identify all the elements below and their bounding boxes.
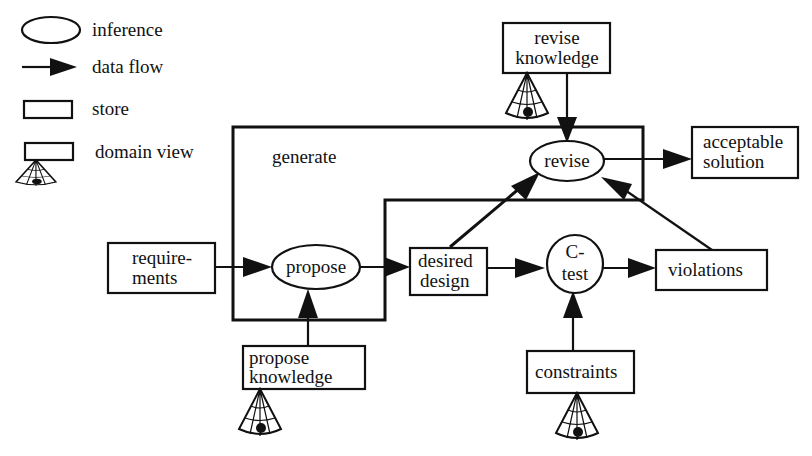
edge-constraints-c-test xyxy=(563,291,583,350)
node-label-line: violations xyxy=(668,259,743,280)
node-requirements[interactable]: require- ments xyxy=(108,243,215,293)
node-label-line: require- xyxy=(132,247,192,268)
arrow-icon xyxy=(22,58,77,76)
node-label-line: propose xyxy=(249,347,309,368)
domain-view-cone-icon xyxy=(239,389,281,436)
node-label-line: knowledge xyxy=(249,366,332,387)
node-revise-knowledge[interactable]: revise knowledge xyxy=(503,23,610,120)
legend-item-inference: inference xyxy=(22,17,163,43)
legend-label: store xyxy=(92,98,129,119)
edge-revise-knowledge-revise xyxy=(557,73,577,143)
edge-revise-acceptable-solution xyxy=(604,149,692,169)
node-revise[interactable]: revise xyxy=(530,141,604,181)
legend: inference data flow store domain view xyxy=(16,17,194,186)
edges xyxy=(215,73,712,350)
node-label-line: propose xyxy=(286,256,346,277)
edge-desired-design-revise xyxy=(450,172,540,247)
cone-icon xyxy=(16,160,56,186)
edge-propose-desired-design xyxy=(360,257,410,277)
inference-ellipse-icon xyxy=(22,17,80,43)
edge-violations-revise xyxy=(601,177,712,250)
edge-requirements-propose xyxy=(215,257,272,277)
legend-label: inference xyxy=(92,19,163,40)
node-propose-knowledge[interactable]: propose knowledge xyxy=(239,346,365,436)
legend-item-data-flow: data flow xyxy=(22,56,164,77)
node-label-line: revise xyxy=(534,27,579,48)
node-constraints[interactable]: constraints xyxy=(527,351,634,440)
legend-label: data flow xyxy=(92,56,164,77)
legend-item-domain-view: domain view xyxy=(16,141,194,186)
node-c-test[interactable]: C- test xyxy=(547,235,603,293)
node-label-line: desired xyxy=(418,250,473,271)
domain-view-cone-icon xyxy=(556,393,598,440)
node-label-line: knowledge xyxy=(515,47,598,68)
edge-c-test-violations xyxy=(603,258,656,278)
domain-view-cone-icon xyxy=(506,73,548,120)
node-label-line: revise xyxy=(544,150,589,171)
generate-label: generate xyxy=(272,146,336,167)
edge-desired-design-c-test xyxy=(487,258,545,278)
node-label-line: test xyxy=(562,263,589,284)
node-label-line: solution xyxy=(703,151,765,172)
node-label-line: ments xyxy=(132,267,177,288)
propose-and-revise-diagram: inference data flow store domain view ge… xyxy=(0,0,812,456)
store-rectangle-icon xyxy=(24,101,72,118)
legend-label: domain view xyxy=(95,141,194,162)
node-desired-design[interactable]: desired design xyxy=(410,248,487,295)
node-label-line: constraints xyxy=(535,361,617,382)
domain-view-rectangle-icon xyxy=(25,143,73,160)
legend-item-store: store xyxy=(24,98,129,119)
node-violations[interactable]: violations xyxy=(656,250,767,290)
node-acceptable-solution[interactable]: acceptable solution xyxy=(692,127,798,178)
node-label-line: design xyxy=(420,270,470,291)
edge-propose-knowledge-propose xyxy=(298,289,318,346)
node-propose[interactable]: propose xyxy=(272,245,360,289)
node-label-line: C- xyxy=(566,241,585,262)
node-label-line: acceptable xyxy=(703,131,783,152)
